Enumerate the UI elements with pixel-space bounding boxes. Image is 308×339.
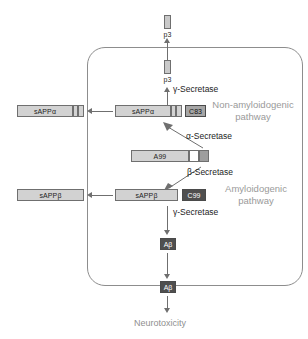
app-cytoplasmic-segment xyxy=(199,150,209,162)
abeta-extracellular-label: Aβ xyxy=(164,284,173,291)
app-a99-bar: A99 xyxy=(131,150,209,162)
amyloidogenic-pathway-label: Amyloidogenic pathway xyxy=(210,183,302,207)
app-a99-label: A99 xyxy=(154,153,167,160)
amyloidogenic-line1: Amyloidogenic xyxy=(225,183,287,194)
sappb-extracellular-bar: sAPPβ xyxy=(17,189,84,201)
sappa-extracellular-label: sAPPα xyxy=(34,108,56,115)
sappb-intracellular-bar: sAPPβ xyxy=(115,189,178,201)
beta-secretase-label: β-Secretase xyxy=(187,167,233,177)
sappa-intracellular-label: sAPPα xyxy=(132,108,154,115)
c83-label: C83 xyxy=(189,108,202,115)
sappa-extracellular-bar: sAPPα xyxy=(17,105,84,117)
p3-transport-arrow-head xyxy=(164,38,170,43)
sappb-intracellular-label: sAPPβ xyxy=(135,192,157,199)
abeta-intracellular-label: Aβ xyxy=(164,241,173,248)
gamma-secretase-bottom-label: γ-Secretase xyxy=(173,207,218,217)
abeta-extracellular-box: Aβ xyxy=(160,281,176,293)
p3-intracellular-label: p3 xyxy=(155,76,180,83)
p3-extracellular-block xyxy=(164,15,171,29)
p3-intracellular-block xyxy=(164,60,171,74)
c99-label: C99 xyxy=(188,192,201,199)
abeta-intracellular-box: Aβ xyxy=(160,238,176,250)
sappa-secretion-arrow-line xyxy=(91,111,113,112)
gamma-secretase-top-label: γ-Secretase xyxy=(173,84,218,94)
neurotoxicity-arrow-head xyxy=(164,308,170,313)
alpha-secretase-label: α-Secretase xyxy=(186,131,232,141)
non-amyloidogenic-line1: Non-amyloidogenic xyxy=(212,99,293,110)
sappb-secretion-arrow-head xyxy=(87,192,92,198)
sappa-intracellular-end-segment xyxy=(176,105,182,117)
gamma-secretase-bottom-arrow-line xyxy=(167,206,168,231)
gamma-secretase-top-arrow-head xyxy=(164,87,170,92)
sappa-extracellular-end-segment xyxy=(78,105,84,117)
c99-fragment-box: C99 xyxy=(182,189,206,201)
gamma-secretase-bottom-arrow-head xyxy=(164,230,170,235)
sappb-secretion-arrow-line xyxy=(91,195,113,196)
gamma-secretase-top-arrow-line xyxy=(167,91,168,106)
abeta-export-arrow-head xyxy=(164,274,170,279)
non-amyloidogenic-line2: pathway xyxy=(235,111,270,122)
p3-extracellular-label: p3 xyxy=(155,31,180,38)
neurotoxicity-label: Neurotoxicity xyxy=(134,318,186,328)
app-transmembrane-segment xyxy=(189,150,199,162)
sappb-extracellular-label: sAPPβ xyxy=(39,192,61,199)
sappa-intracellular-bar: sAPPα xyxy=(115,105,182,117)
pathway-diagram: p3 p3 γ-Secretase sAPPα sAPPα C83 Non-am… xyxy=(0,0,308,339)
non-amyloidogenic-pathway-label: Non-amyloidogenic pathway xyxy=(203,99,303,123)
amyloidogenic-line2: pathway xyxy=(238,195,273,206)
sappa-secretion-arrow-head xyxy=(87,108,92,114)
abeta-export-arrow-line xyxy=(167,253,168,275)
